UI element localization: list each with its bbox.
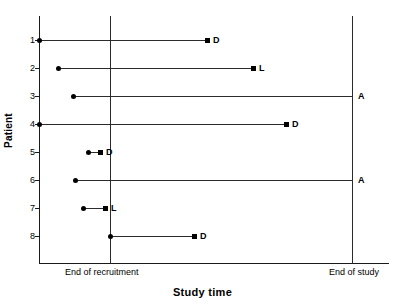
end-marker-2 xyxy=(251,66,256,71)
start-marker-3 xyxy=(71,94,76,99)
end-marker-5 xyxy=(98,150,103,155)
y-tick-label-1: 1 xyxy=(5,36,35,45)
patient-line-8 xyxy=(111,236,195,237)
y-tick-label-2: 2 xyxy=(5,64,35,73)
start-marker-4 xyxy=(37,122,42,127)
outcome-label-5: D xyxy=(106,148,113,157)
end-marker-1 xyxy=(205,38,210,43)
y-tick-2 xyxy=(35,68,39,69)
outcome-label-7: L xyxy=(111,204,117,213)
y-tick-label-7: 7 xyxy=(5,204,35,213)
y-tick-5 xyxy=(35,152,39,153)
y-axis-line xyxy=(39,16,40,264)
end-marker-8 xyxy=(192,234,197,239)
start-marker-2 xyxy=(56,66,61,71)
patient-line-6 xyxy=(76,180,353,181)
y-tick-label-6: 6 xyxy=(5,176,35,185)
patient-line-4 xyxy=(40,124,286,125)
y-tick-label-8: 8 xyxy=(5,232,35,241)
outcome-label-6: A xyxy=(358,176,365,185)
start-marker-7 xyxy=(81,206,86,211)
x-tick-label-end-of-recruitment: End of recruitment xyxy=(65,268,139,277)
y-tick-8 xyxy=(35,236,39,237)
start-marker-5 xyxy=(86,150,91,155)
start-marker-6 xyxy=(73,178,78,183)
patient-line-1 xyxy=(40,40,208,41)
end-marker-4 xyxy=(284,122,289,127)
x-axis-line xyxy=(39,263,389,264)
x-tick-label-end-of-study: End of study xyxy=(329,268,379,277)
start-marker-8 xyxy=(108,234,113,239)
reference-line-end-of-recruitment xyxy=(110,16,111,264)
reference-line-end-of-study xyxy=(352,16,353,264)
outcome-label-2: L xyxy=(259,64,265,73)
study-timeline-chart: Patient Study time 1 D 2 L 3 A 4 D 5 D 6… xyxy=(0,0,405,308)
end-marker-7 xyxy=(103,206,108,211)
start-marker-1 xyxy=(37,38,42,43)
y-tick-6 xyxy=(35,180,39,181)
y-tick-7 xyxy=(35,208,39,209)
y-tick-label-5: 5 xyxy=(5,148,35,157)
x-axis-title: Study time xyxy=(0,286,405,298)
patient-line-3 xyxy=(74,96,353,97)
y-tick-label-4: 4 xyxy=(5,120,35,129)
outcome-label-4: D xyxy=(292,120,299,129)
patient-line-2 xyxy=(58,68,253,69)
y-tick-3 xyxy=(35,96,39,97)
y-tick-label-3: 3 xyxy=(5,92,35,101)
outcome-label-1: D xyxy=(213,36,220,45)
outcome-label-3: A xyxy=(358,92,365,101)
outcome-label-8: D xyxy=(200,232,207,241)
